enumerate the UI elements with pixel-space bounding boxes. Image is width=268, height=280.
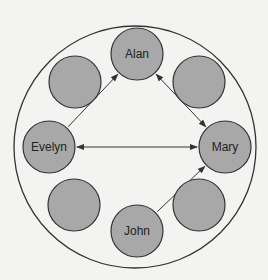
node-john: John [111, 205, 163, 257]
diagram-svg: AlanMaryJohnEvelyn [0, 0, 268, 280]
node-circle [48, 179, 100, 231]
node-circle [173, 56, 225, 108]
node-label: Evelyn [31, 140, 67, 154]
node-label: Alan [125, 47, 149, 61]
node-alan: Alan [111, 28, 163, 80]
node-mary: Mary [199, 121, 251, 173]
node-circle [173, 179, 225, 231]
node-tl [49, 56, 101, 108]
node-bl [48, 179, 100, 231]
nodes-layer: AlanMaryJohnEvelyn [23, 28, 251, 257]
node-label: Mary [212, 140, 239, 154]
node-label: John [124, 224, 150, 238]
node-circle [49, 56, 101, 108]
node-evelyn: Evelyn [23, 121, 75, 173]
node-tr [173, 56, 225, 108]
network-diagram: AlanMaryJohnEvelyn [0, 0, 268, 280]
node-br [173, 179, 225, 231]
